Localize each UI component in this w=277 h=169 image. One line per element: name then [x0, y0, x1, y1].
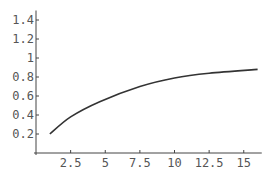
axes: 2.557.51012.5150.20.40.60.811.21.4 [12, 11, 261, 169]
series-line [50, 69, 258, 134]
y-tick-label: 1 [27, 51, 34, 65]
y-tick-label: 1.2 [12, 32, 34, 46]
x-tick-label: 2.5 [60, 156, 82, 168]
data-series [50, 69, 258, 134]
y-tick-label: 1.4 [12, 13, 34, 27]
line-chart: 2.557.51012.5150.20.40.60.811.21.4 [0, 0, 277, 168]
y-tick-label: 0.6 [12, 89, 34, 103]
y-tick-label: 0.2 [12, 127, 34, 141]
y-tick-label: 0.4 [12, 108, 34, 122]
x-tick-label: 7.5 [129, 156, 151, 168]
x-tick-label: 12.5 [195, 156, 224, 168]
x-tick-label: 10 [167, 156, 181, 168]
y-tick-label: 0.8 [12, 70, 34, 84]
x-tick-label: 15 [237, 156, 251, 168]
x-tick-label: 5 [102, 156, 109, 168]
